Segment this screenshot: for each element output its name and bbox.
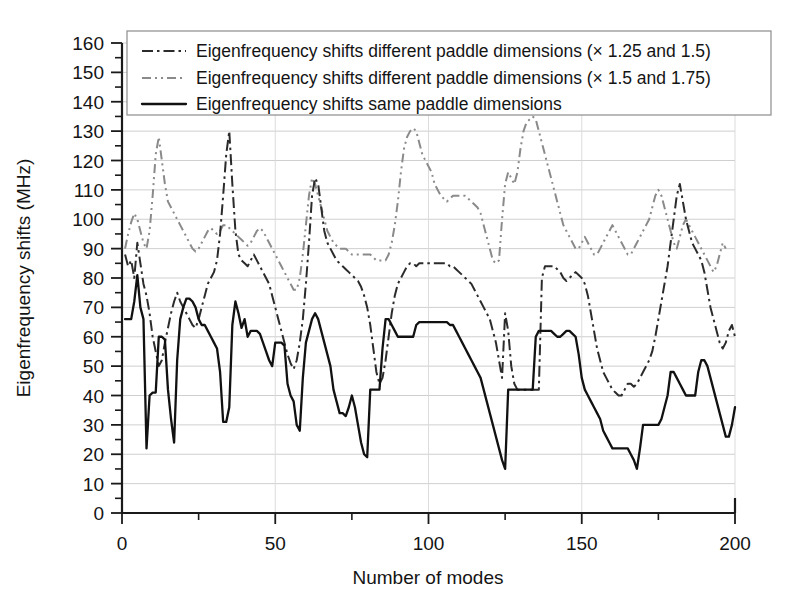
y-tick-labels: 0102030405060708090100110120130140150160 — [72, 33, 104, 524]
y-tick-label-100: 100 — [72, 209, 104, 230]
y-tick-label-130: 130 — [72, 121, 104, 142]
legend: Eigenfrequency shifts different paddle d… — [127, 31, 771, 115]
x-axis-title: Number of modes — [352, 567, 503, 588]
y-tick-group — [111, 43, 122, 513]
legend-label-2: Eigenfrequency shifts same paddle dimens… — [196, 94, 562, 114]
y-tick-label-40: 40 — [83, 386, 104, 407]
x-tick-label-100: 100 — [413, 533, 445, 554]
x-tick-label-50: 50 — [265, 533, 286, 554]
legend-label-0: Eigenfrequency shifts different paddle d… — [196, 41, 711, 61]
y-tick-label-90: 90 — [83, 239, 104, 260]
x-tick-label-0: 0 — [117, 533, 128, 554]
x-tick-labels: 050100150200 — [117, 533, 751, 554]
x-tick-label-150: 150 — [566, 533, 598, 554]
y-tick-label-60: 60 — [83, 327, 104, 348]
y-axis-title: Eigenfrequency shifts (MHz) — [13, 159, 34, 398]
series-layer — [125, 116, 735, 469]
y-tick-label-140: 140 — [72, 92, 104, 113]
y-tick-label-50: 50 — [83, 356, 104, 377]
y-tick-label-80: 80 — [83, 268, 104, 289]
y-tick-label-10: 10 — [83, 474, 104, 495]
x-tick-label-200: 200 — [719, 533, 751, 554]
y-tick-label-150: 150 — [72, 62, 104, 83]
y-tick-label-160: 160 — [72, 33, 104, 54]
y-tick-label-0: 0 — [93, 503, 104, 524]
y-tick-label-120: 120 — [72, 151, 104, 172]
y-tick-label-30: 30 — [83, 415, 104, 436]
chart-svg: 0102030405060708090100110120130140150160… — [0, 0, 805, 612]
x-tick-group — [122, 513, 735, 524]
y-tick-label-70: 70 — [83, 297, 104, 318]
y-tick-label-20: 20 — [83, 444, 104, 465]
chart-figure: 0102030405060708090100110120130140150160… — [0, 0, 805, 612]
y-tick-label-110: 110 — [74, 180, 104, 201]
legend-label-1: Eigenfrequency shifts different paddle d… — [196, 68, 711, 88]
